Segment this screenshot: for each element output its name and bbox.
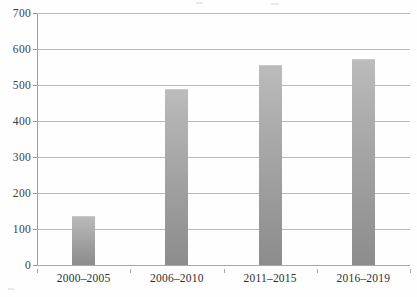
x-tick-mark <box>37 269 38 273</box>
x-axis-tick-label: 2000–2005 <box>57 272 111 284</box>
y-tick-mark-300 <box>33 157 37 158</box>
gridline-0: 0 <box>37 265 410 266</box>
y-axis-tick-label: 100 <box>13 223 31 235</box>
x-axis-tick-label: 2016–2019 <box>337 272 391 284</box>
y-tick-mark-500 <box>33 85 37 86</box>
y-axis-tick-label: 600 <box>13 43 31 55</box>
x-tick-mark <box>130 269 131 273</box>
y-tick-mark-600 <box>33 49 37 50</box>
plot-area: 7006005004003002001000 <box>37 13 410 265</box>
gridline-600: 600 <box>37 49 410 50</box>
x-axis-tick-label: 2011–2015 <box>244 272 297 284</box>
bar-2000–2005[interactable] <box>72 216 95 265</box>
y-tick-mark-200 <box>33 193 37 194</box>
bar-2016–2019[interactable] <box>352 59 375 265</box>
x-tick-mark <box>224 269 225 273</box>
y-tick-mark-700 <box>33 13 37 14</box>
x-axis-tick-label: 2006–2010 <box>150 272 204 284</box>
x-axis-label-group: 2000–20052006–20102011–20152016–2019 <box>37 269 410 293</box>
y-tick-mark-100 <box>33 229 37 230</box>
scan-artifact <box>271 3 279 5</box>
bar-2011–2015[interactable] <box>259 65 282 265</box>
y-axis-tick-label: 200 <box>13 187 31 199</box>
x-tick-mark <box>317 269 318 273</box>
y-axis-tick-label: 0 <box>25 259 31 271</box>
y-axis-tick-label: 300 <box>13 151 31 163</box>
x-tick-mark <box>410 269 411 273</box>
bar-chart-figure: 7006005004003002001000 2000–20052006–201… <box>0 0 417 297</box>
y-axis-tick-label: 700 <box>13 7 31 19</box>
y-axis-tick-label: 400 <box>13 115 31 127</box>
gridline-700: 700 <box>37 13 410 14</box>
scan-artifact <box>196 2 203 4</box>
y-tick-mark-400 <box>33 121 37 122</box>
y-axis-tick-label: 500 <box>13 79 31 91</box>
y-tick-mark-0 <box>33 265 37 266</box>
scan-artifact <box>8 288 14 290</box>
bar-2006–2010[interactable] <box>165 89 188 265</box>
